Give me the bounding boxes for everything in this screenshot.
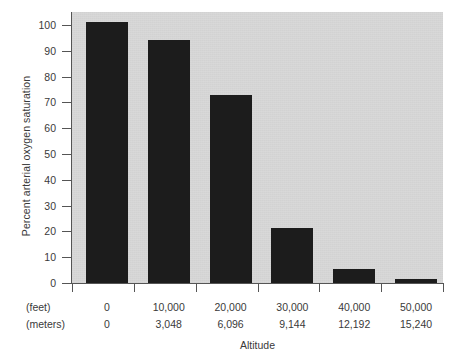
x-tick	[72, 284, 73, 292]
x-axis-row-meters: (meters) 03,0486,0969,14412,19215,240	[0, 318, 464, 333]
y-tick-label: 30	[24, 201, 56, 212]
bar	[395, 279, 437, 283]
bar	[148, 40, 190, 283]
x-tick-label: 9,144	[260, 318, 324, 330]
y-tick-label: 60	[24, 123, 56, 134]
x-axis-line	[62, 283, 444, 284]
y-tick	[62, 51, 71, 52]
x-tick-label: 3,048	[137, 318, 201, 330]
y-tick	[62, 154, 71, 155]
y-tick	[62, 257, 71, 258]
y-tick	[62, 25, 71, 26]
x-axis-row-feet: (feet) 010,00020,00030,00040,00050,000	[0, 301, 464, 316]
y-tick	[62, 180, 71, 181]
x-tick	[258, 284, 259, 292]
plot-area	[72, 12, 443, 283]
y-tick-label: 40	[24, 175, 56, 186]
y-tick-label: 50	[24, 149, 56, 160]
x-tick-label: 12,192	[322, 318, 386, 330]
x-axis-title: Altitude	[72, 339, 443, 351]
y-tick	[62, 128, 71, 129]
y-tick-label: 70	[24, 97, 56, 108]
x-tick-label: 30,000	[260, 301, 324, 313]
x-tick-label: 6,096	[199, 318, 263, 330]
y-tick-label: 0	[24, 278, 56, 289]
x-tick-label: 0	[75, 318, 139, 330]
x-tick-label: 20,000	[199, 301, 263, 313]
x-tick	[443, 284, 444, 292]
y-tick-label: 90	[24, 46, 56, 57]
y-tick	[62, 102, 71, 103]
x-tick-label: 15,240	[384, 318, 448, 330]
bar	[86, 22, 128, 283]
y-tick-label: 10	[24, 252, 56, 263]
y-tick	[62, 206, 71, 207]
y-tick	[62, 231, 71, 232]
y-tick	[62, 283, 71, 284]
x-tick	[319, 284, 320, 292]
bar-chart-figure: Percent arterial oxygen saturation 01020…	[0, 0, 464, 362]
y-tick	[62, 77, 71, 78]
x-tick	[381, 284, 382, 292]
x-tick-label: 0	[75, 301, 139, 313]
x-tick-label: 40,000	[322, 301, 386, 313]
bar	[210, 95, 252, 283]
x-tick-label: 10,000	[137, 301, 201, 313]
y-tick-label: 100	[24, 20, 56, 31]
bar	[333, 269, 375, 283]
y-tick-label: 20	[24, 226, 56, 237]
x-tick	[196, 284, 197, 292]
x-tick	[134, 284, 135, 292]
y-tick-label: 80	[24, 72, 56, 83]
x-tick-label: 50,000	[384, 301, 448, 313]
bar	[271, 228, 313, 283]
